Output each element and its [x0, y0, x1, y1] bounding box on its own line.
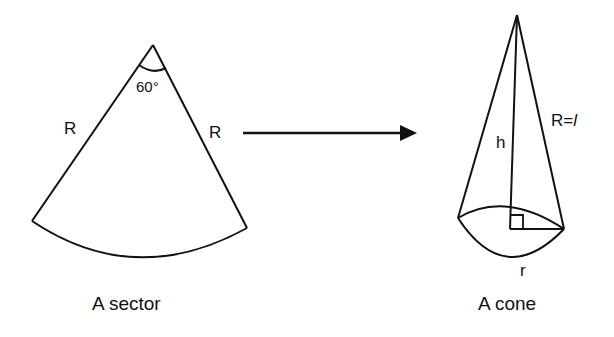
cone-slant-var: l [573, 111, 577, 130]
sector-angle-label: 60° [136, 79, 159, 94]
transform-arrow [243, 125, 417, 141]
cone-slant-prefix: R= [551, 111, 573, 130]
cone-radius-label: r [520, 262, 526, 279]
cone-slant-label: R=l [551, 112, 577, 129]
sector-right-side-label: R [209, 124, 221, 141]
cone-height-label: h [496, 134, 505, 151]
sector-left-side-label: R [64, 120, 76, 137]
cone-shape [458, 15, 564, 257]
angle-arc [139, 65, 166, 71]
diagram-canvas [0, 0, 614, 337]
cone-caption: A cone [478, 294, 536, 313]
right-angle-marker [510, 215, 523, 229]
cone-height-line [510, 15, 517, 229]
sector-shape [32, 45, 247, 257]
sector-caption: A sector [92, 294, 161, 313]
